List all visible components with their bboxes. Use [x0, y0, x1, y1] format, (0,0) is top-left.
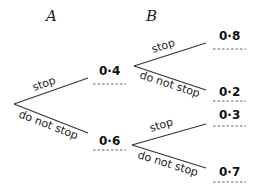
edge-label-b2-do-not-stop: do not stop	[136, 148, 200, 179]
probability-b1-do-not-stop: 0·2	[219, 85, 240, 99]
edge-label-b1-do-not-stop: do not stop	[138, 68, 201, 100]
probability-tree: A B stop do not stop 0·4 0·6 stop do not…	[0, 0, 259, 196]
probability-a-do-not-stop: 0·6	[99, 134, 120, 148]
edge-label-b2-stop: stop	[148, 115, 175, 134]
edge-label-a-do-not-stop: do not stop	[17, 108, 80, 143]
probability-b2-do-not-stop: 0·7	[219, 165, 240, 179]
probability-a-stop: 0·4	[99, 64, 120, 78]
edge-label-b1-stop: stop	[150, 36, 177, 56]
probability-b2-stop: 0·3	[219, 108, 240, 122]
stage-a-header: A	[44, 7, 57, 25]
edge-label-a-stop: stop	[31, 74, 58, 94]
probability-b1-stop: 0·8	[219, 29, 240, 43]
stage-b-header: B	[145, 7, 157, 25]
